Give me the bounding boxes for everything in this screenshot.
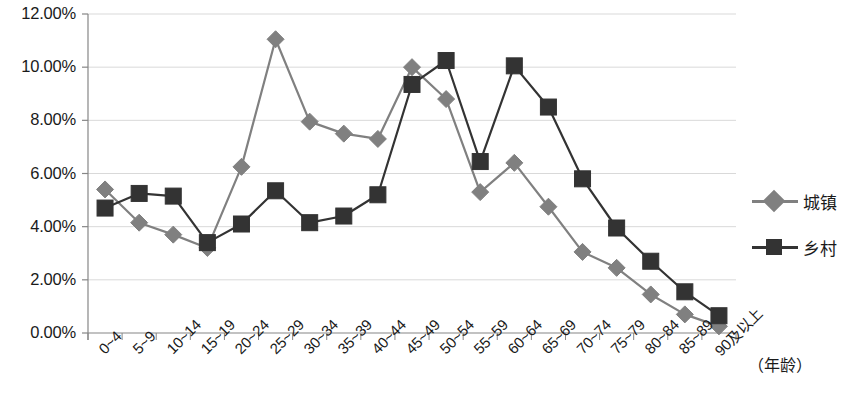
data-point — [302, 215, 318, 231]
data-point — [165, 188, 181, 204]
legend-item-urban[interactable]: 城镇 — [752, 178, 857, 224]
data-point — [574, 243, 591, 260]
data-point — [335, 125, 352, 142]
data-point — [233, 216, 249, 232]
legend-item-rural[interactable]: 乡村 — [752, 224, 857, 270]
data-point — [676, 306, 693, 323]
data-point — [233, 158, 250, 175]
data-point — [131, 185, 147, 201]
data-point — [643, 253, 659, 269]
y-axis-tick-label: 6.00% — [0, 164, 76, 183]
data-point — [404, 76, 420, 92]
chart-container: 0.00%2.00%4.00%6.00%8.00%10.00%12.00% 0~… — [0, 0, 859, 415]
data-point — [609, 220, 625, 236]
y-axis-tick-label: 12.00% — [0, 4, 76, 23]
data-point — [336, 208, 352, 224]
data-point — [199, 235, 215, 251]
y-axis-tick-label: 8.00% — [0, 110, 76, 129]
x-axis-unit-label: （年龄） — [748, 352, 812, 376]
legend-key — [752, 190, 798, 212]
data-point — [472, 154, 488, 170]
data-point — [506, 58, 522, 74]
data-point — [575, 171, 591, 187]
data-point — [438, 53, 454, 69]
data-point — [540, 99, 556, 115]
diamond-marker-icon — [763, 190, 786, 213]
legend-item-label: 城镇 — [803, 189, 837, 214]
data-point — [711, 308, 727, 324]
y-axis-tick-label: 0.00% — [0, 323, 76, 342]
data-point — [97, 200, 113, 216]
chart-legend: 城镇乡村 — [752, 178, 857, 270]
data-point — [268, 183, 284, 199]
data-point — [370, 187, 386, 203]
y-axis-tick-label: 10.00% — [0, 57, 76, 76]
square-marker-icon — [766, 239, 782, 255]
data-point — [165, 226, 182, 243]
data-point — [369, 130, 386, 147]
legend-key — [752, 236, 798, 258]
legend-item-label: 乡村 — [803, 235, 837, 260]
y-axis-tick-label: 2.00% — [0, 270, 76, 289]
data-point — [267, 31, 284, 48]
data-point — [301, 113, 318, 130]
chart-series-rural — [97, 53, 727, 324]
data-point — [677, 284, 693, 300]
y-axis-tick-label: 4.00% — [0, 217, 76, 236]
